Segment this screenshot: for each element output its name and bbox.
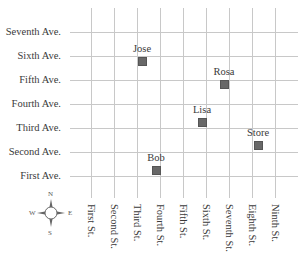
street-label: First St.	[85, 204, 97, 237]
street-label: Sixth St.	[200, 204, 212, 240]
compass-east-label: E	[68, 209, 72, 217]
avenue-label: First Ave.	[20, 170, 61, 182]
location-marker	[220, 80, 229, 89]
location-label: Rosa	[214, 66, 235, 78]
avenue-label: Sixth Ave.	[17, 50, 61, 62]
location-marker	[254, 141, 263, 150]
street-label: Fifth St.	[177, 204, 189, 238]
avenue-line	[70, 80, 298, 81]
avenue-line	[70, 32, 298, 33]
street-line	[91, 8, 92, 198]
street-line	[229, 8, 230, 198]
street-line	[252, 8, 253, 198]
street-label: Fourth St.	[154, 204, 166, 246]
compass-west-label: W	[29, 209, 36, 217]
location-label: Jose	[133, 43, 151, 55]
street-label: Third St.	[131, 204, 143, 241]
avenue-line	[70, 152, 298, 153]
street-line	[275, 8, 276, 198]
avenue-label: Second Ave.	[9, 146, 61, 158]
compass-north-label: N	[48, 190, 53, 198]
avenue-line	[70, 176, 298, 177]
street-line	[183, 8, 184, 198]
location-marker	[152, 166, 161, 175]
street-label: Seventh St.	[223, 204, 235, 252]
avenue-label: Third Ave.	[16, 122, 61, 134]
avenue-line	[70, 104, 298, 105]
street-line	[206, 8, 207, 198]
location-marker	[198, 118, 207, 127]
street-label: Second St.	[108, 204, 120, 249]
compass-rose: N S W E	[28, 190, 74, 236]
street-line	[114, 8, 115, 198]
location-label: Bob	[147, 152, 165, 164]
avenue-label: Seventh Ave.	[6, 26, 61, 38]
avenue-line	[70, 56, 298, 57]
location-label: Lisa	[193, 104, 211, 116]
avenue-label: Fifth Ave.	[19, 74, 61, 86]
compass-south-label: S	[48, 229, 52, 237]
avenue-label: Fourth Ave.	[12, 98, 61, 110]
location-label: Store	[247, 127, 269, 139]
street-label: Ninth St.	[269, 204, 281, 242]
location-marker	[138, 57, 147, 66]
street-label: Eighth St.	[246, 204, 258, 246]
street-line	[137, 8, 138, 198]
